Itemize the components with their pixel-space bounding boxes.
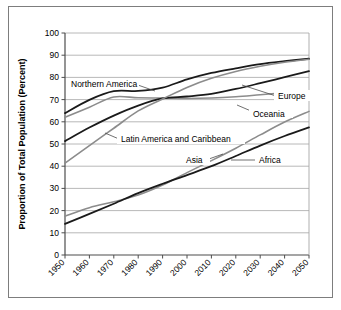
series-label-latin-america-and-caribbean-leader-line [105,133,119,139]
y-axis-tick-label: 70 [50,95,60,105]
y-axis-tick-label: 50 [50,139,60,149]
y-axis-tick-label: 20 [50,206,60,216]
y-axis-tick-label: 80 [50,72,60,82]
chart-figure: 0102030405060708090100195019601970198019… [8,6,333,298]
y-axis-tick-label: 60 [50,117,60,127]
x-axis-tick-label: 1980 [119,257,140,278]
x-axis-tick-label: 2020 [217,257,238,278]
x-axis-tick-label: 2030 [241,257,262,278]
series-label-asia: Asia [186,155,203,165]
chart-plot-area: 0102030405060708090100195019601970198019… [9,7,332,297]
y-axis-tick-label: 30 [50,183,60,193]
series-label-oceania-leader-line [237,105,251,111]
x-axis-tick-label: 1970 [95,257,116,278]
x-axis-tick-label: 1950 [46,257,67,278]
series-label-africa: Africa [259,155,281,165]
series-label-northern-america: Northern America [71,79,137,89]
x-axis-tick-label: 2050 [290,257,311,278]
y-axis-tick-label: 100 [45,28,59,38]
line-chart: 0102030405060708090100195019601970198019… [9,7,331,296]
x-axis-tick-label: 2000 [168,257,189,278]
x-axis-tick-label: 1960 [70,257,91,278]
series-label-latin-america-and-caribbean: Latin America and Caribbean [121,134,231,144]
series-label-europe: Europe [278,91,306,101]
y-axis-tick-label: 90 [50,50,60,60]
series-label-oceania: Oceania [253,109,285,119]
x-axis-tick-label: 2040 [266,257,287,278]
x-axis-tick-label: 2010 [192,257,213,278]
y-axis-tick-label: 10 [50,228,60,238]
x-axis-tick-label: 1990 [144,257,165,278]
y-axis-title: Proportion of Total Population (Percent) [17,59,27,230]
y-axis-tick-label: 40 [50,161,60,171]
